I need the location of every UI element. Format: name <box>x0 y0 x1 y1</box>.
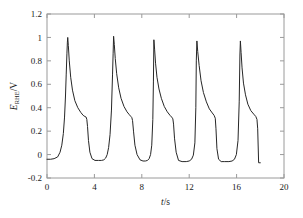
x-axis-title: t/s <box>161 197 170 207</box>
x-tick-label: 16 <box>232 182 242 192</box>
y-tick-label: 0.4 <box>31 103 43 113</box>
y-tick-label: -0.2 <box>28 173 42 183</box>
y-tick-label: 0.8 <box>31 56 43 66</box>
y-tick-label: 1 <box>38 33 43 43</box>
y-tick-label: 0.6 <box>31 79 43 89</box>
x-tick-label: 4 <box>92 182 97 192</box>
x-tick-label: 8 <box>140 182 145 192</box>
y-tick-label: 1.2 <box>31 9 42 19</box>
chart-container: 048121620 -0.200.20.40.60.811.2 t/sERHE/… <box>0 0 303 218</box>
x-tick-label: 20 <box>280 182 290 192</box>
y-tick-label: 0.2 <box>31 126 42 136</box>
potential-vs-time-chart: 048121620 -0.200.20.40.60.811.2 t/sERHE/… <box>0 0 303 218</box>
x-tick-label: 12 <box>185 182 194 192</box>
y-tick-label: 0 <box>38 150 43 160</box>
x-tick-label: 0 <box>45 182 50 192</box>
